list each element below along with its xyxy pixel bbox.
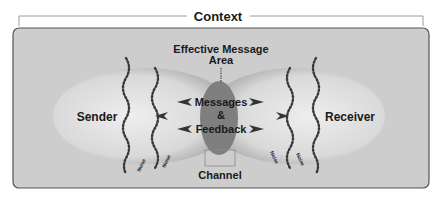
context-title: Context xyxy=(194,9,243,24)
effective-area-label-line2: Area xyxy=(209,54,234,66)
receiver-label: Receiver xyxy=(325,110,375,124)
feedback-label: Feedback xyxy=(196,123,248,135)
channel-label: Channel xyxy=(198,169,241,181)
communication-diagram: Context Noise Noise Noise Noise Effectiv… xyxy=(0,0,437,197)
sender-label: Sender xyxy=(77,110,118,124)
messages-label: Messages xyxy=(195,96,248,108)
ampersand-label: & xyxy=(217,109,225,121)
